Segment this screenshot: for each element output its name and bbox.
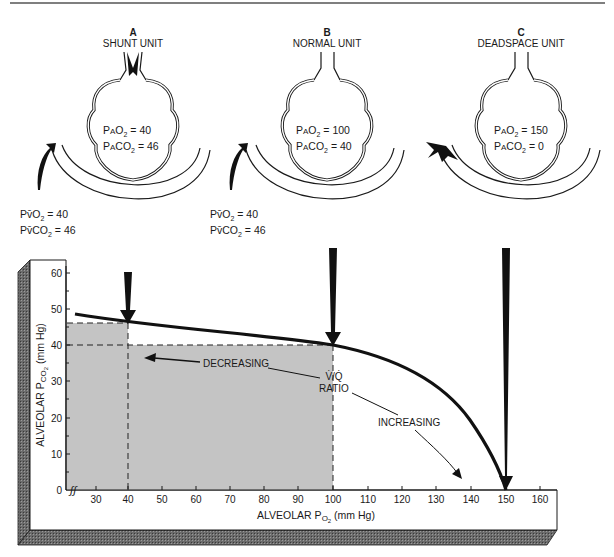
capillary-icon <box>246 150 404 199</box>
arrow-marker-shunt-icon <box>120 272 136 324</box>
svg-text:30: 30 <box>90 494 102 505</box>
svg-text:100: 100 <box>325 494 342 505</box>
arrow-marker-deadspace-icon <box>499 248 513 490</box>
unit-a-pvo2: Pv̄O2 = 40 <box>20 208 68 222</box>
svg-text:90: 90 <box>292 494 304 505</box>
increasing-annotation: INCREASING <box>352 393 462 479</box>
unit-b-title: NORMAL UNIT <box>293 38 362 49</box>
unit-c-title: DEADSPACE UNIT <box>477 38 564 49</box>
svg-text:60: 60 <box>51 268 63 279</box>
venous-inflow-arrow-icon <box>38 143 56 190</box>
unit-a-letter: A <box>129 27 136 38</box>
unit-a-paco2: PACO2 = 46 <box>103 140 159 154</box>
capillary-icon <box>52 150 210 199</box>
svg-text:50: 50 <box>156 494 168 505</box>
svg-text:60: 60 <box>190 494 202 505</box>
svg-text:20: 20 <box>51 413 63 424</box>
svg-text:10: 10 <box>51 449 63 460</box>
vq-ratio-label-bottom: RATIO <box>319 383 349 394</box>
airway-icon <box>508 52 534 80</box>
unit-b-pao2: PAO2 = 100 <box>296 124 350 138</box>
svg-text:50: 50 <box>51 304 63 315</box>
svg-text:70: 70 <box>224 494 236 505</box>
airway-icon <box>314 52 340 80</box>
panel-bottom-edge <box>18 530 557 545</box>
unit-a-title: SHUNT UNIT <box>103 38 163 49</box>
unit-c-letter: C <box>517 27 524 38</box>
svg-text:80: 80 <box>258 494 270 505</box>
unit-b-pvco2: Pv̄CO2 = 46 <box>210 224 266 238</box>
panel-left-edge <box>18 260 30 545</box>
down-right-arrow-icon <box>452 468 462 479</box>
unit-b-paco2: PACO2 = 40 <box>296 140 352 154</box>
svg-text:DECREASING: DECREASING <box>203 358 269 369</box>
arrow-marker-normal-icon <box>325 248 341 346</box>
svg-text:130: 130 <box>428 494 445 505</box>
svg-text:40: 40 <box>122 494 134 505</box>
unit-b-letter: B <box>323 27 330 38</box>
svg-text:110: 110 <box>360 494 376 505</box>
unit-c-paco2: PACO2 = 0 <box>494 140 544 154</box>
venous-inflow-arrow-icon <box>230 143 248 190</box>
shaded-region-normal <box>67 345 333 490</box>
svg-text:150: 150 <box>498 494 515 505</box>
svg-text:160: 160 <box>532 494 549 505</box>
unit-c-deadspace: C DEADSPACE UNIT PAO2 = 150 PACO2 = 0 <box>426 27 600 199</box>
svg-text:0: 0 <box>56 485 62 496</box>
svg-text:40: 40 <box>51 340 63 351</box>
airway-obstruction-icon <box>127 52 139 76</box>
blocked-perfusion-icon <box>426 142 458 162</box>
unit-a-pao2: PAO2 = 40 <box>103 124 151 138</box>
unit-b-pvo2: Pv̄O2 = 40 <box>210 208 258 222</box>
o2-co2-chart: 60 50 40 30 20 10 0 ALVEOLAR PCO2 (mm Hg… <box>18 248 557 545</box>
svg-text:30: 30 <box>51 376 63 387</box>
ventilation-perfusion-diagram: A SHUNT UNIT PAO2 = 40 PACO2 = 46 Pv̄O2 … <box>0 0 614 557</box>
unit-b-normal: B NORMAL UNIT PAO2 = 100 PACO2 = 40 Pv̄O… <box>210 27 404 238</box>
capillary-icon <box>440 150 600 199</box>
svg-text:INCREASING: INCREASING <box>378 417 440 428</box>
unit-c-pao2: PAO2 = 150 <box>494 124 548 138</box>
vq-ratio-label-top: V̇/Q̇ <box>325 370 342 382</box>
unit-a-pvco2: Pv̄CO2 = 46 <box>20 224 76 238</box>
unit-a-shunt: A SHUNT UNIT PAO2 = 40 PACO2 = 46 Pv̄O2 … <box>20 27 210 238</box>
svg-text:120: 120 <box>394 494 411 505</box>
svg-text:140: 140 <box>463 494 480 505</box>
